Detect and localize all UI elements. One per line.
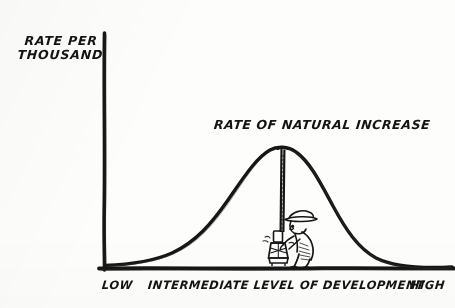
chart-figure: RATE PER THOUSAND RATE OF NATURAL INCREA… [0,0,455,308]
x-axis-labels: LOW INTERMEDIATE LEVEL OF DEVELOPMENT HI… [100,278,450,296]
x-axis-label-middle: INTERMEDIATE LEVEL OF DEVELOPMENT [147,278,425,292]
cartoon-man-with-hat [263,211,317,268]
x-axis-label-low: LOW [101,278,133,292]
hanging-lantern [269,231,289,266]
x-axis-label-high: HIGH [409,278,445,292]
plot-area [0,0,455,308]
